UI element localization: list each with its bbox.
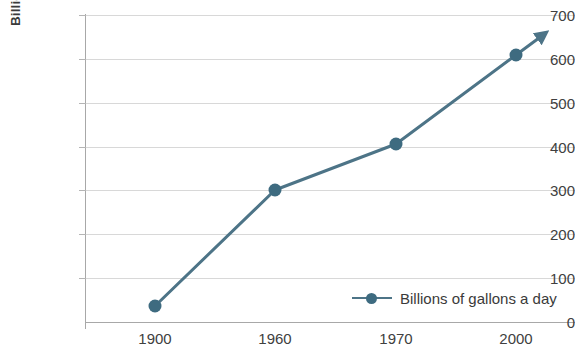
y-tick-mark-700 xyxy=(79,15,86,16)
legend: Billions of gallons a day xyxy=(352,286,557,310)
gridline-300 xyxy=(85,190,575,191)
x-tick-label-1900: 1900 xyxy=(110,330,200,347)
x-tick-label-1970: 1970 xyxy=(351,330,441,347)
y-tick-label-200: 200 xyxy=(503,226,575,243)
y-tick-label-400: 400 xyxy=(503,139,575,156)
x-axis-line xyxy=(85,322,575,323)
y-tick-label-600: 600 xyxy=(503,51,575,68)
legend-marker-icon xyxy=(366,293,377,304)
plot-area xyxy=(85,15,575,322)
y-tick-label-500: 500 xyxy=(503,95,575,112)
gridline-400 xyxy=(85,147,575,148)
x-tick-label-1960: 1960 xyxy=(230,330,320,347)
y-tick-label-700: 700 xyxy=(503,7,575,24)
line-chart: Billions 700 600 500 400 300 200 100 0 1… xyxy=(0,0,575,350)
y-tick-mark-600 xyxy=(79,59,86,60)
legend-swatch-billions-of-gallons-a-day xyxy=(352,291,392,305)
y-tick-mark-100 xyxy=(79,278,86,279)
y-axis-title: Billions xyxy=(0,0,30,30)
x-tick-label-2000: 2000 xyxy=(471,330,561,347)
legend-label-billions-of-gallons-a-day: Billions of gallons a day xyxy=(400,290,557,307)
gridline-600 xyxy=(85,59,575,60)
y-tick-mark-500 xyxy=(79,103,86,104)
y-tick-mark-400 xyxy=(79,147,86,148)
y-tick-label-100: 100 xyxy=(503,270,575,287)
gridline-100 xyxy=(85,278,575,279)
y-tick-label-0: 0 xyxy=(503,314,575,331)
y-tick-label-300: 300 xyxy=(503,182,575,199)
x-axis-origin-tick xyxy=(85,316,86,328)
y-tick-mark-300 xyxy=(79,190,86,191)
y-tick-mark-200 xyxy=(79,234,86,235)
gridline-500 xyxy=(85,103,575,104)
y-axis-line xyxy=(85,14,86,329)
gridline-700 xyxy=(85,15,575,16)
gridline-200 xyxy=(85,234,575,235)
